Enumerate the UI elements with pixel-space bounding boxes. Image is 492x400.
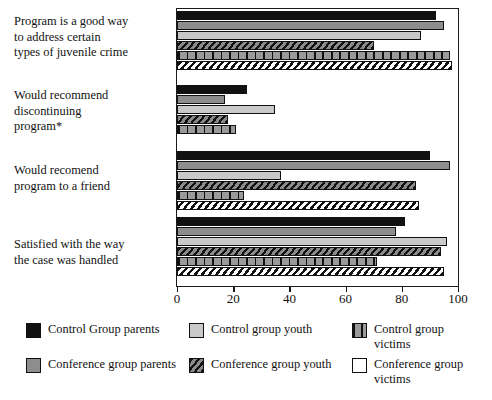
category-label-program-good-way: Program is a good way to address certain… xyxy=(14,14,174,61)
category-label-line: to address certain xyxy=(14,30,101,44)
bar-conference-group-youth xyxy=(177,181,416,190)
legend-label: Conference group parents xyxy=(48,357,176,372)
chart-figure: Program is a good way to address certain… xyxy=(0,0,492,400)
bar-conference-group-parents xyxy=(177,227,396,236)
x-tick-label: 100 xyxy=(448,291,468,307)
x-tick-label: 0 xyxy=(174,291,181,307)
legend-swatch-control-group-youth xyxy=(189,323,204,338)
x-tick-label: 40 xyxy=(283,291,296,307)
legend-item-conference-group-parents: Conference group parents xyxy=(26,357,176,373)
bar-control-group-parents xyxy=(177,85,247,94)
legend-label: Conference group youth xyxy=(211,357,331,372)
bar-control-group-victims xyxy=(177,257,377,266)
bar-control-group-youth xyxy=(177,105,275,114)
category-label-line: Would recomend xyxy=(14,163,99,177)
legend-swatch-conference-group-youth xyxy=(189,358,204,373)
chart-legend: Control Group parents Control group yout… xyxy=(26,322,476,384)
category-label-recommend-to-friend: Would recomend program to a friend xyxy=(14,163,174,194)
category-label-line: the case was handled xyxy=(14,253,118,267)
category-label-line: program to a friend xyxy=(14,179,110,193)
bar-control-group-youth xyxy=(177,171,281,180)
category-label-line: types of juvenile crime xyxy=(14,45,128,59)
bar-conference-group-parents xyxy=(177,21,444,30)
x-axis: 0 20 40 60 80 100 xyxy=(176,287,459,309)
legend-label: Control Group parents xyxy=(48,322,160,337)
category-axis-labels: Program is a good way to address certain… xyxy=(14,8,176,287)
legend-item-control-group-parents: Control Group parents xyxy=(26,322,160,338)
bar-control-group-parents xyxy=(177,11,436,20)
bar-control-group-victims xyxy=(177,191,244,200)
legend-label: Control group youth xyxy=(211,322,312,337)
bar-conference-group-parents xyxy=(177,161,450,170)
bar-conference-group-victims xyxy=(177,61,452,70)
legend-item-control-group-victims: Control group victims xyxy=(352,322,476,351)
bar-control-group-parents xyxy=(177,217,405,226)
category-label-would-recommend-discontinuing: Would recommend discontinuing program* xyxy=(14,88,174,135)
legend-label: Control group victims xyxy=(374,322,476,351)
category-label-line: Would recommend xyxy=(14,88,108,102)
category-label-line: Satisfied with the way xyxy=(14,237,124,251)
legend-item-conference-group-youth: Conference group youth xyxy=(189,357,331,373)
bar-control-group-victims xyxy=(177,51,450,60)
category-label-line: discontinuing xyxy=(14,104,81,118)
legend-item-control-group-youth: Control group youth xyxy=(189,322,312,338)
legend-label: Conference group victims xyxy=(374,357,476,386)
category-label-satisfied-with-handling: Satisfied with the way the case was hand… xyxy=(14,237,174,268)
bar-conference-group-youth xyxy=(177,115,228,124)
bar-conference-group-victims xyxy=(177,267,444,276)
x-tick-label: 20 xyxy=(227,291,240,307)
x-tick-label: 80 xyxy=(395,291,408,307)
bar-control-group-youth xyxy=(177,31,421,40)
plot-area xyxy=(177,9,458,286)
bar-control-group-parents xyxy=(177,151,430,160)
legend-swatch-control-group-parents xyxy=(26,323,41,338)
bar-conference-group-victims xyxy=(177,201,419,210)
category-label-line: program* xyxy=(14,119,62,133)
x-tick-label: 60 xyxy=(339,291,352,307)
category-label-line: Program is a good way xyxy=(14,14,128,28)
legend-swatch-conference-group-parents xyxy=(26,358,41,373)
bar-conference-group-youth xyxy=(177,247,441,256)
bar-conference-group-parents xyxy=(177,95,225,104)
legend-item-conference-group-victims: Conference group victims xyxy=(352,357,476,386)
bar-control-group-victims xyxy=(177,125,236,134)
legend-swatch-control-group-victims xyxy=(352,323,367,338)
legend-swatch-conference-group-victims xyxy=(352,358,367,373)
bar-conference-group-youth xyxy=(177,41,374,50)
bar-control-group-youth xyxy=(177,237,447,246)
